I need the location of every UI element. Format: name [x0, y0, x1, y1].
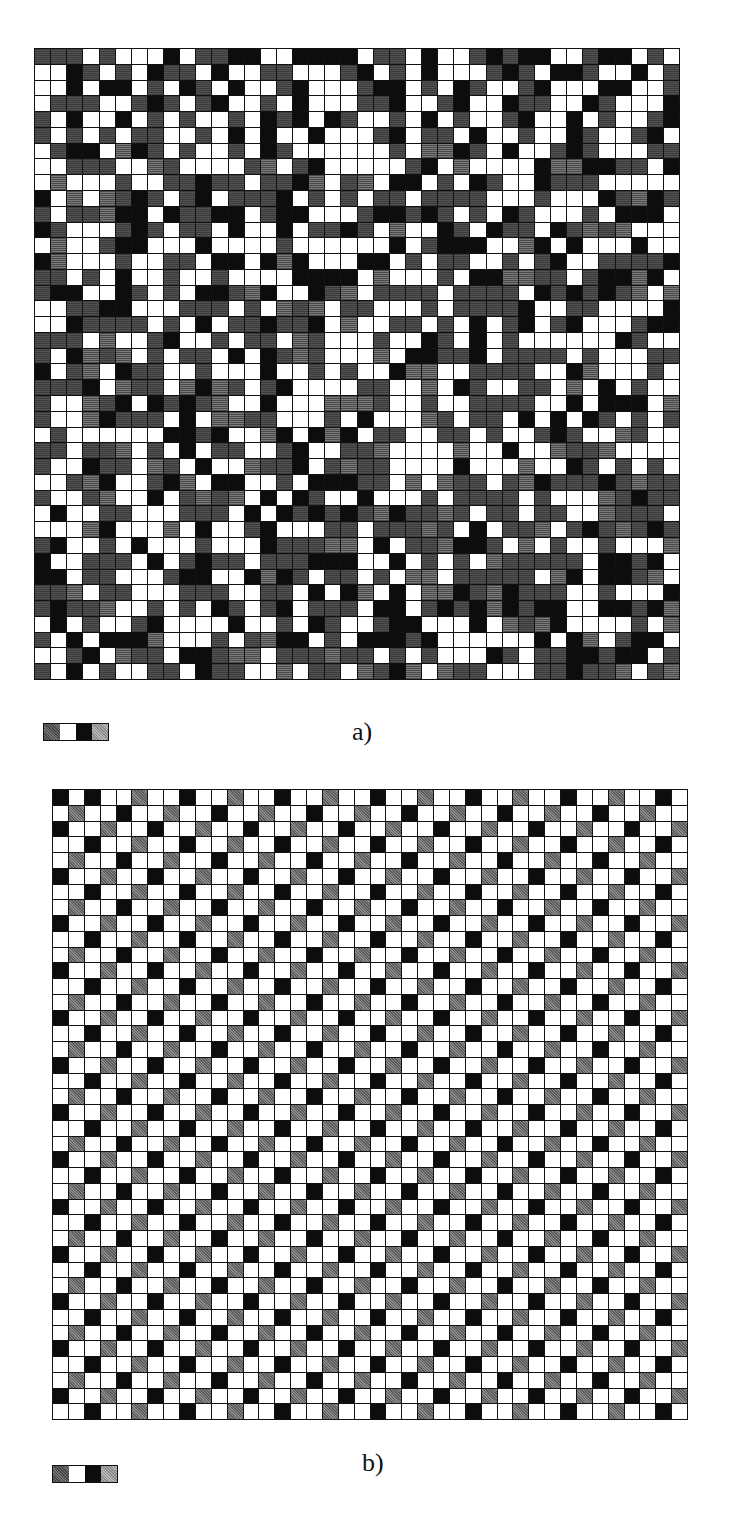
grid-a-cell: [325, 585, 340, 600]
grid-a-cell: [648, 522, 663, 537]
grid-a-cell: [583, 49, 598, 64]
grid-b-cell: [593, 900, 608, 915]
grid-b-cell: [244, 1373, 259, 1388]
grid-b-cell: [529, 806, 544, 821]
grid-a-cell: [132, 65, 147, 80]
grid-b-cell: [291, 1294, 306, 1309]
grid-b-cell: [307, 806, 322, 821]
grid-b-cell: [482, 1263, 497, 1278]
grid-b-cell: [117, 1341, 132, 1356]
grid-b-cell: [371, 948, 386, 963]
grid-a-cell: [422, 585, 437, 600]
grid-a-cell: [664, 459, 679, 474]
grid-a-cell: [470, 191, 485, 206]
grid-b-cell: [148, 1310, 163, 1325]
grid-a-cell: [51, 112, 66, 127]
grid-a-cell: [180, 412, 195, 427]
grid-b-cell: [275, 837, 290, 852]
grid-a-cell: [551, 317, 566, 332]
grid-b-cell: [323, 979, 338, 994]
grid-a-cell: [83, 554, 98, 569]
grid-a-cell: [212, 459, 227, 474]
grid-b-cell: [482, 932, 497, 947]
grid-a-cell: [100, 364, 115, 379]
grid-b-cell: [291, 963, 306, 978]
grid-a-cell: [583, 506, 598, 521]
grid-b-cell: [545, 837, 560, 852]
grid-b-cell: [672, 1357, 687, 1372]
grid-b-cell: [132, 963, 147, 978]
grid-b-cell: [228, 1389, 243, 1404]
grid-a-cell: [487, 349, 502, 364]
grid-a-cell: [132, 617, 147, 632]
grid-b-cell: [561, 1121, 576, 1136]
grid-b-cell: [513, 837, 528, 852]
grid-b-cell: [53, 1247, 68, 1262]
grid-a-cell: [616, 286, 631, 301]
grid-a-cell: [390, 633, 405, 648]
grid-a-cell: [148, 207, 163, 222]
grid-a-cell: [148, 617, 163, 632]
grid-b-cell: [498, 1011, 513, 1026]
grid-b-cell: [196, 1341, 211, 1356]
grid-b-cell: [640, 963, 655, 978]
grid-b-cell: [498, 995, 513, 1010]
grid-a-cell: [470, 491, 485, 506]
grid-a-cell: [309, 475, 324, 490]
grid-a-cell: [83, 286, 98, 301]
grid-a-cell: [358, 317, 373, 332]
grid-a-cell: [180, 65, 195, 80]
grid-a-cell: [116, 207, 131, 222]
grid-b-cell: [577, 790, 592, 805]
grid-a-cell: [51, 65, 66, 80]
grid-b-cell: [450, 1089, 465, 1104]
grid-b-cell: [196, 1011, 211, 1026]
grid-a-cell: [51, 443, 66, 458]
grid-a-cell: [51, 128, 66, 143]
grid-a-cell: [196, 144, 211, 159]
grid-a-cell: [180, 570, 195, 585]
grid-b-cell: [625, 1200, 640, 1215]
grid-b-cell: [323, 885, 338, 900]
grid-b-cell: [148, 1105, 163, 1120]
grid-b-cell: [259, 1278, 274, 1293]
grid-b-cell: [69, 1121, 84, 1136]
grid-b-cell: [101, 1058, 116, 1073]
grid-b-cell: [577, 1152, 592, 1167]
grid-a-cell: [132, 254, 147, 269]
grid-b-cell: [69, 1215, 84, 1230]
grid-b-cell: [53, 948, 68, 963]
grid-a-cell: [454, 49, 469, 64]
grid-b-cell: [386, 1026, 401, 1041]
grid-a-cell: [100, 506, 115, 521]
grid-a-cell: [212, 317, 227, 332]
grid-a-cell: [551, 223, 566, 238]
grid-b-cell: [244, 1026, 259, 1041]
grid-b-cell: [196, 1026, 211, 1041]
grid-b-cell: [656, 995, 671, 1010]
grid-a-cell: [116, 633, 131, 648]
grid-b-cell: [513, 1373, 528, 1388]
grid-b-cell: [339, 869, 354, 884]
grid-b-cell: [609, 1294, 624, 1309]
grid-b-cell: [117, 979, 132, 994]
grid-a-cell: [261, 49, 276, 64]
grid-b-cell: [672, 1184, 687, 1199]
grid-b-cell: [307, 1278, 322, 1293]
grid-a-cell: [487, 380, 502, 395]
grid-a-cell: [358, 286, 373, 301]
grid-b-cell: [672, 1200, 687, 1215]
grid-a-cell: [487, 223, 502, 238]
grid-b-cell: [196, 1231, 211, 1246]
grid-b-cell: [561, 900, 576, 915]
grid-b-cell: [386, 932, 401, 947]
grid-b-cell: [466, 1152, 481, 1167]
grid-b-cell: [291, 1152, 306, 1167]
grid-b-cell: [69, 1011, 84, 1026]
grid-b-cell: [498, 900, 513, 915]
grid-a-cell: [648, 207, 663, 222]
grid-b-cell: [402, 900, 417, 915]
grid-a-cell: [422, 144, 437, 159]
grid-a-cell: [67, 364, 82, 379]
grid-a-cell: [100, 223, 115, 238]
